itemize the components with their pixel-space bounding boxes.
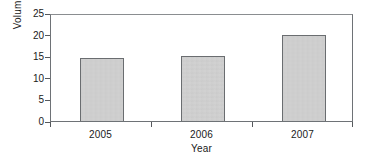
x-axis-tick-mark	[252, 122, 253, 127]
plot-frame	[50, 14, 353, 122]
bar-2006	[181, 56, 225, 121]
x-axis-tick-marks	[50, 122, 353, 127]
x-axis-tick-label: 2007	[252, 129, 353, 141]
bar-2005	[80, 58, 124, 121]
x-axis-tick-mark	[151, 122, 152, 127]
y-axis-tick-label: 0	[24, 117, 44, 127]
bar-chart-figure: Volume 0510152025 200520062007 Year	[0, 0, 366, 159]
y-axis-tick-label: 20	[24, 31, 44, 41]
y-axis-tick-labels: 0510152025	[24, 14, 44, 122]
x-axis-tick-label: 2006	[151, 129, 252, 141]
x-axis-title: Year	[50, 143, 353, 155]
y-axis-tick-label: 10	[24, 74, 44, 84]
y-axis-tick-label: 25	[24, 9, 44, 19]
plot-area	[51, 15, 352, 121]
y-axis-tick-label: 5	[24, 95, 44, 105]
y-axis-tick-label: 15	[24, 52, 44, 62]
bar-2007	[282, 35, 326, 121]
x-axis-tick-mark	[50, 122, 51, 127]
x-axis-tick-labels: 200520062007	[50, 129, 353, 143]
x-axis-tick-mark	[352, 122, 353, 127]
x-axis-tick-label: 2005	[50, 129, 151, 141]
